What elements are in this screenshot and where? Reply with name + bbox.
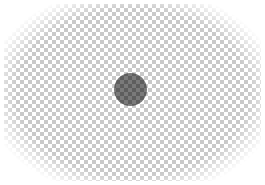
semi-transparent-circle xyxy=(114,73,147,106)
image-canvas xyxy=(0,0,265,185)
